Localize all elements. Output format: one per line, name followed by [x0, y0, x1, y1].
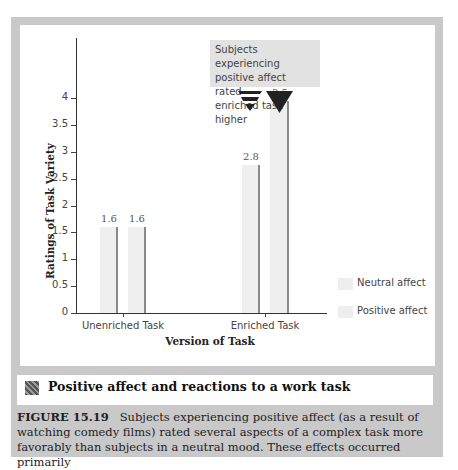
bar-enriched-neutral: [242, 165, 260, 313]
x-axis-title: Version of Task: [140, 335, 280, 347]
x-tick: [265, 313, 266, 317]
y-axis: [76, 38, 77, 314]
bar-enriched-positive: [270, 101, 289, 313]
legend-swatch-neutral: [338, 278, 353, 290]
y-axis-title: Ratings of Task Variety: [44, 141, 56, 281]
y-tick: [71, 259, 76, 260]
y-tick: [71, 125, 76, 126]
legend-label-positive: Positive affect: [357, 305, 427, 316]
figure-caption-label: FIGURE 15.19: [17, 410, 109, 424]
annotation-line: enriched task higher: [215, 99, 315, 127]
y-tick: [71, 152, 76, 153]
y-tick-label: 3.5: [38, 118, 68, 129]
y-tick: [71, 232, 76, 233]
solid-arrow-down-icon: [266, 90, 294, 114]
bar-value-label: 2.8: [236, 151, 266, 162]
annotation-line: positive affect rated: [215, 71, 315, 99]
y-tick-label: 4: [38, 91, 68, 102]
legend-swatch-positive: [338, 306, 353, 318]
annotation-box: Subjects experiencing positive affect ra…: [210, 40, 320, 87]
x-category-label: Unenriched Task: [63, 320, 183, 331]
y-tick: [71, 206, 76, 207]
x-axis: [76, 313, 327, 314]
legend-label-neutral: Neutral affect: [357, 277, 426, 288]
x-category-label: Enriched Task: [205, 320, 325, 331]
y-tick-label: 0: [38, 306, 68, 317]
bar-value-label: 1.6: [122, 213, 152, 224]
bar-unenriched-positive: [128, 227, 146, 313]
y-tick: [71, 179, 76, 180]
y-tick: [71, 313, 76, 314]
y-tick: [71, 98, 76, 99]
y-tick: [71, 286, 76, 287]
figure-badge-icon: [25, 381, 39, 395]
striped-arrow-down-icon: [238, 90, 264, 114]
annotation-line: Subjects experiencing: [215, 43, 315, 71]
x-tick: [123, 313, 124, 317]
bar-value-label: 1.6: [94, 213, 124, 224]
bar-unenriched-neutral: [100, 227, 118, 313]
figure-title: Positive affect and reactions to a work …: [48, 379, 350, 394]
figure-caption: FIGURE 15.19 Subjects experiencing posit…: [17, 410, 442, 470]
